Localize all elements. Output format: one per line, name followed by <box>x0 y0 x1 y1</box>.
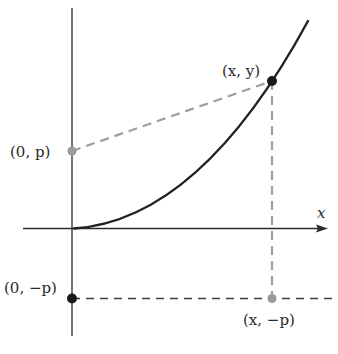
x-axis-label: x <box>317 204 326 222</box>
focus-label: (0, p) <box>10 143 50 161</box>
parabola-diagram: (0, p) (x, y) (0, −p) (x, −p) x <box>0 0 338 354</box>
parabola-curve <box>74 21 308 229</box>
focus-to-point-dashed <box>72 81 272 151</box>
directrix-projection-label: (x, −p) <box>243 311 295 329</box>
directrix-axis-point <box>67 294 77 304</box>
directrix-projection-point <box>268 294 277 303</box>
curve-point-label: (x, y) <box>222 62 260 80</box>
curve-point <box>267 76 277 86</box>
directrix-axis-label: (0, −p) <box>4 279 57 297</box>
focus-point <box>68 147 77 156</box>
